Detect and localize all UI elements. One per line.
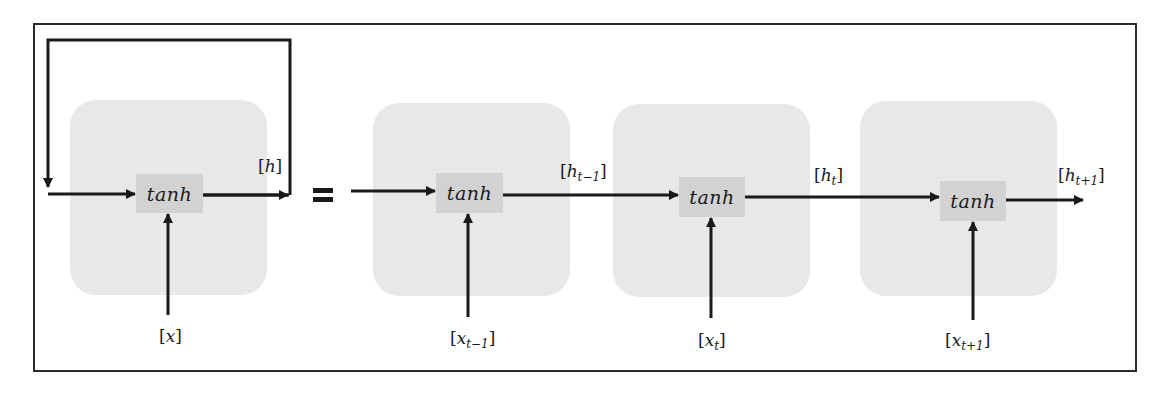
tanh-activation-t: tanh bbox=[679, 177, 745, 217]
input-label-t: [xt] bbox=[698, 332, 726, 349]
equals-sign bbox=[313, 188, 333, 203]
hidden-label-t-plus-1: [ht+1] bbox=[1058, 167, 1105, 184]
tanh-activation-t-plus-1: tanh bbox=[940, 181, 1006, 221]
hidden-label-t: [ht] bbox=[814, 167, 843, 184]
input-label-t-minus-1: [xt−1] bbox=[450, 330, 495, 347]
folded-tanh-activation: tanh bbox=[136, 174, 203, 213]
hidden-label-t-minus-1: [ht−1] bbox=[560, 163, 607, 180]
folded-input-label: [x] bbox=[159, 328, 182, 345]
input-label-t-plus-1: [xt+1] bbox=[945, 332, 990, 349]
folded-output-label: [h] bbox=[258, 158, 282, 175]
tanh-activation-t-minus-1: tanh bbox=[436, 173, 503, 213]
